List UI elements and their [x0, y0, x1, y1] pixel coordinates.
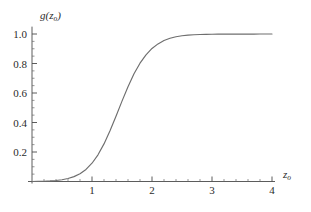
- data-curve-g-z0: [32, 34, 272, 181]
- y-axis-label: g(zo): [40, 9, 61, 24]
- sigmoid-plot: 12340.20.40.60.81.0zog(zo): [0, 0, 311, 212]
- y-axis-tick-label: 0.2: [13, 146, 27, 158]
- y-axis-tick-label: 1.0: [13, 28, 27, 40]
- x-axis-tick-label: 3: [209, 184, 215, 196]
- x-axis-tick-label: 1: [89, 184, 95, 196]
- y-axis-label-close: ): [56, 9, 61, 22]
- y-axis-tick-label: 0.6: [13, 87, 27, 99]
- y-axis-tick-label: 0.4: [13, 117, 27, 129]
- x-axis-label: zo: [282, 168, 291, 183]
- x-axis-tick-label: 2: [149, 184, 155, 196]
- x-axis-tick-label: 4: [269, 184, 275, 196]
- x-axis-label-subscript: o: [287, 173, 291, 182]
- chart-figure: 12340.20.40.60.81.0zog(zo): [0, 0, 311, 212]
- y-axis-tick-label: 0.8: [13, 58, 27, 70]
